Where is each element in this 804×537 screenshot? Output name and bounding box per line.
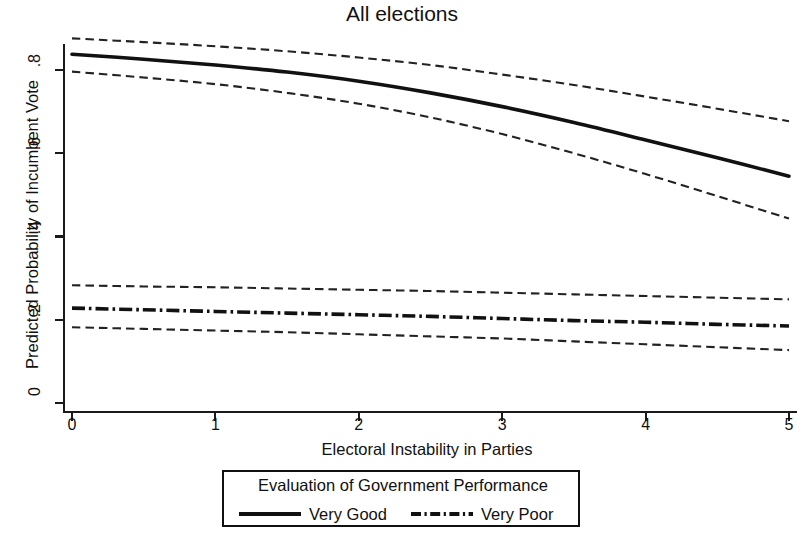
axes	[55, 44, 797, 421]
legend-sample-solid-line-icon	[238, 507, 302, 521]
legend: Evaluation of Government Performance Ver…	[222, 470, 580, 527]
legend-entry-very-good: Very Good	[238, 502, 387, 526]
x-tick-label-2: 2	[339, 416, 379, 434]
chart-figure: All elections Predicted Probability of I…	[0, 0, 804, 537]
legend-title: Evaluation of Government Performance	[224, 476, 582, 495]
y-tick-label-wrap-3: .6	[20, 143, 50, 163]
y-tick-label-4: .8	[26, 54, 44, 84]
y-tick-label-wrap-0: 0	[20, 393, 50, 413]
ci-upper-very-good	[72, 38, 789, 121]
x-tick-label-0: 0	[52, 416, 92, 434]
y-tick-label-2: .4	[26, 221, 44, 251]
x-axis-label: Electoral Instability in Parties	[64, 440, 790, 459]
curves	[72, 38, 789, 350]
legend-sample-dashdot-line-icon	[410, 507, 474, 521]
y-tick-label-wrap-2: .4	[20, 227, 50, 247]
y-tick-label-0: 0	[26, 387, 44, 417]
x-tick-label-5: 5	[769, 416, 804, 434]
curve-very-poor	[72, 308, 789, 326]
legend-entry-very-poor: Very Poor	[410, 502, 553, 526]
y-tick-label-1: .2	[26, 304, 44, 334]
legend-label-very-good: Very Good	[309, 505, 387, 524]
curve-very-good	[72, 54, 789, 176]
legend-entries: Very Good Very Poor	[224, 502, 582, 526]
legend-label-very-poor: Very Poor	[481, 505, 553, 524]
x-tick-label-3: 3	[482, 416, 522, 434]
y-tick-label-wrap-1: .2	[20, 310, 50, 330]
axis-lines	[64, 44, 797, 412]
x-tick-label-1: 1	[195, 416, 235, 434]
y-tick-label-3: .6	[26, 137, 44, 167]
x-tick-label-4: 4	[626, 416, 666, 434]
ci-upper-very-poor	[72, 285, 789, 299]
y-tick-label-wrap-4: .8	[20, 60, 50, 80]
ci-lower-very-poor	[72, 327, 789, 350]
